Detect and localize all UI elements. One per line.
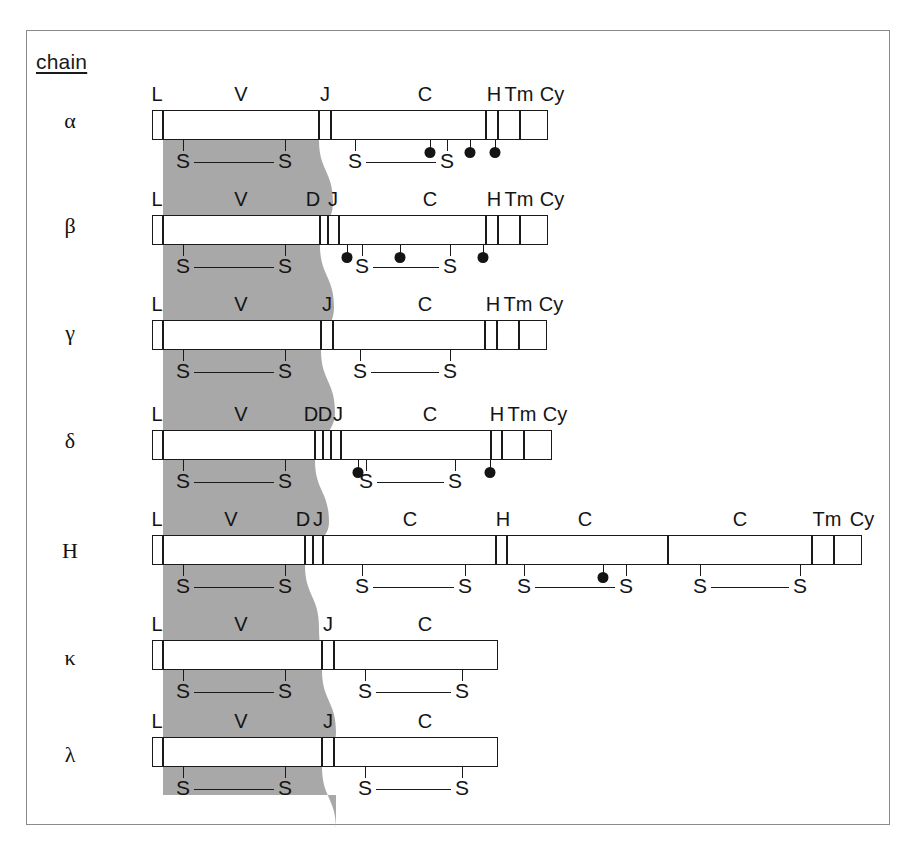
segment-alpha-c-3 bbox=[331, 110, 486, 140]
segment-label-beta-j-3: J bbox=[328, 188, 338, 211]
segment-delta-l-0 bbox=[152, 430, 163, 460]
chain-label-beta: β bbox=[50, 213, 90, 239]
disulfide-bond-line-beta-1 bbox=[373, 267, 439, 268]
segment-label-gamma-cy-6: Cy bbox=[539, 293, 563, 316]
segment-label-H-c-7: C bbox=[733, 508, 747, 531]
segment-label-alpha-l-0: L bbox=[151, 83, 162, 106]
segment-label-gamma-j-2: J bbox=[322, 293, 332, 316]
segment-label-delta-j-4: J bbox=[333, 403, 343, 426]
segment-label-lambda-v-1: V bbox=[234, 710, 247, 733]
disulfide-bond-line-lambda-0 bbox=[194, 789, 274, 790]
segment-delta-cy-8 bbox=[524, 430, 552, 460]
chain-label-delta: δ bbox=[50, 428, 90, 454]
segment-delta-v-1 bbox=[163, 430, 315, 460]
segment-label-H-cy-9: Cy bbox=[850, 508, 874, 531]
disulfide-s-label-gamma-0-1: S bbox=[278, 359, 292, 383]
segment-kappa-v-1 bbox=[163, 640, 322, 670]
segment-alpha-v-1 bbox=[163, 110, 319, 140]
glycosylation-site-beta-0 bbox=[342, 252, 353, 263]
chain-column-header: chain bbox=[36, 50, 87, 74]
segment-label-gamma-h-4: H bbox=[486, 293, 500, 316]
segment-beta-cy-7 bbox=[520, 215, 548, 245]
segment-alpha-l-0 bbox=[152, 110, 163, 140]
segment-gamma-tm-5 bbox=[497, 320, 519, 350]
segment-label-beta-c-4: C bbox=[423, 188, 437, 211]
diagram-frame bbox=[26, 30, 890, 825]
segment-label-lambda-c-3: C bbox=[418, 710, 432, 733]
segment-kappa-c-3 bbox=[334, 640, 498, 670]
disulfide-s-label-alpha-0-0: S bbox=[176, 149, 190, 173]
segment-kappa-j-2 bbox=[322, 640, 334, 670]
segment-label-kappa-j-2: J bbox=[323, 613, 333, 636]
segment-H-cy-9 bbox=[834, 535, 862, 565]
chain-label-lambda: λ bbox=[50, 742, 90, 768]
segment-lambda-c-3 bbox=[334, 737, 498, 767]
segment-alpha-tm-5 bbox=[498, 110, 520, 140]
segment-label-kappa-v-1: V bbox=[234, 613, 247, 636]
segment-label-H-v-1: V bbox=[224, 508, 237, 531]
segment-delta-j-4 bbox=[331, 430, 341, 460]
segment-beta-c-4 bbox=[339, 215, 486, 245]
segment-kappa-l-0 bbox=[152, 640, 163, 670]
disulfide-bond-line-gamma-0 bbox=[194, 372, 274, 373]
disulfide-s-label-beta-1-1: S bbox=[443, 254, 457, 278]
segment-gamma-cy-6 bbox=[519, 320, 547, 350]
segment-label-beta-tm-6: Tm bbox=[505, 188, 534, 211]
segment-label-H-tm-8: Tm bbox=[813, 508, 842, 531]
segment-label-gamma-v-1: V bbox=[234, 293, 247, 316]
segment-beta-h-5 bbox=[486, 215, 498, 245]
segment-label-delta-d-2: D bbox=[304, 403, 318, 426]
segment-beta-v-1 bbox=[163, 215, 320, 245]
disulfide-s-label-H-1-1: S bbox=[458, 574, 472, 598]
segment-label-delta-h-6: H bbox=[490, 403, 504, 426]
glycosylation-site-delta-0 bbox=[353, 467, 364, 478]
segment-H-l-0 bbox=[152, 535, 163, 565]
disulfide-s-label-kappa-1-1: S bbox=[455, 679, 469, 703]
segment-delta-c-5 bbox=[341, 430, 491, 460]
segment-label-lambda-l-0: L bbox=[151, 710, 162, 733]
segment-label-beta-v-1: V bbox=[234, 188, 247, 211]
segment-lambda-v-1 bbox=[163, 737, 322, 767]
segment-label-delta-v-1: V bbox=[234, 403, 247, 426]
disulfide-s-label-beta-1-0: S bbox=[355, 254, 369, 278]
disulfide-s-label-gamma-1-0: S bbox=[353, 359, 367, 383]
segment-label-delta-cy-8: Cy bbox=[543, 403, 567, 426]
disulfide-s-label-H-0-1: S bbox=[278, 574, 292, 598]
disulfide-bond-line-beta-0 bbox=[194, 267, 274, 268]
segment-label-H-j-3: J bbox=[313, 508, 323, 531]
segment-gamma-v-1 bbox=[163, 320, 321, 350]
disulfide-s-label-H-1-0: S bbox=[355, 574, 369, 598]
segment-label-kappa-l-0: L bbox=[151, 613, 162, 636]
disulfide-s-label-delta-0-1: S bbox=[278, 469, 292, 493]
segment-delta-d-2 bbox=[315, 430, 323, 460]
disulfide-bond-line-delta-1 bbox=[377, 482, 444, 483]
disulfide-bond-line-H-1 bbox=[373, 587, 454, 588]
disulfide-s-label-alpha-0-1: S bbox=[278, 149, 292, 173]
disulfide-s-label-alpha-1-1: S bbox=[440, 149, 454, 173]
segment-label-gamma-tm-5: Tm bbox=[504, 293, 533, 316]
disulfide-s-label-alpha-1-0: S bbox=[348, 149, 362, 173]
disulfide-s-label-lambda-0-0: S bbox=[176, 776, 190, 800]
disulfide-bond-line-alpha-1 bbox=[366, 162, 436, 163]
segment-label-beta-d-2: D bbox=[306, 188, 320, 211]
disulfide-s-label-lambda-1-1: S bbox=[455, 776, 469, 800]
segment-label-H-l-0: L bbox=[151, 508, 162, 531]
disulfide-bond-line-kappa-1 bbox=[376, 692, 451, 693]
segment-label-delta-c-5: C bbox=[423, 403, 437, 426]
chain-label-alpha: α bbox=[50, 108, 90, 134]
disulfide-s-label-H-0-0: S bbox=[176, 574, 190, 598]
disulfide-s-label-kappa-0-1: S bbox=[278, 679, 292, 703]
segment-delta-h-6 bbox=[491, 430, 502, 460]
segment-label-alpha-cy-6: Cy bbox=[540, 83, 564, 106]
segment-H-j-3 bbox=[313, 535, 323, 565]
segment-label-H-d-2: D bbox=[296, 508, 310, 531]
glycosylation-site-alpha-2 bbox=[490, 147, 501, 158]
glycosylation-site-delta-1 bbox=[485, 467, 496, 478]
disulfide-s-label-gamma-0-0: S bbox=[176, 359, 190, 383]
disulfide-s-label-delta-1-1: S bbox=[448, 469, 462, 493]
disulfide-s-label-gamma-1-1: S bbox=[443, 359, 457, 383]
segment-label-alpha-c-3: C bbox=[418, 83, 432, 106]
segment-delta-tm-7 bbox=[502, 430, 524, 460]
disulfide-s-label-H-2-0: S bbox=[517, 574, 531, 598]
disulfide-s-label-H-3-0: S bbox=[693, 574, 707, 598]
